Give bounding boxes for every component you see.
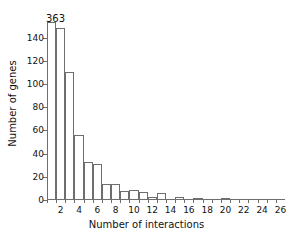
x-tick-label: 14 [161, 205, 181, 215]
bar [56, 28, 65, 200]
x-tick [239, 199, 240, 203]
x-tick [258, 199, 259, 203]
bar [102, 184, 111, 200]
histogram-figure: 020406080100120140 246810121416182022242… [0, 0, 293, 239]
bar [84, 162, 93, 200]
x-tick-label: 2 [51, 205, 71, 215]
x-tick [56, 199, 57, 203]
x-tick-label: 24 [252, 205, 272, 215]
x-tick [276, 199, 277, 203]
x-tick [102, 199, 103, 203]
bar [111, 184, 120, 200]
y-tick-label: 0 [38, 196, 44, 205]
x-tick-label: 6 [87, 205, 107, 215]
x-tick [221, 199, 222, 203]
x-tick [157, 199, 158, 203]
y-tick-label: 100 [27, 80, 44, 89]
x-tick [267, 199, 268, 203]
x-tick [84, 199, 85, 203]
bar [74, 135, 83, 200]
x-tick [166, 199, 167, 203]
bar-series [47, 26, 285, 200]
x-tick-label: 20 [216, 205, 236, 215]
y-tick-label: 20 [33, 173, 44, 182]
x-tick-label: 18 [197, 205, 217, 215]
y-axis-title: Number of genes [7, 39, 18, 169]
x-tick-label: 12 [142, 205, 162, 215]
x-tick [248, 199, 249, 203]
bar [47, 22, 56, 200]
plot-area [47, 26, 285, 200]
x-tick [212, 199, 213, 203]
x-tick [203, 199, 204, 203]
x-tick [93, 199, 94, 203]
y-tick-label: 60 [33, 126, 44, 135]
x-tick [65, 199, 66, 203]
x-tick [139, 199, 140, 203]
bar [93, 164, 102, 200]
y-tick-label: 120 [27, 57, 44, 66]
x-tick-label: 4 [69, 205, 89, 215]
y-tick-label: 80 [33, 103, 44, 112]
y-tick-label: 40 [33, 150, 44, 159]
x-tick [230, 199, 231, 203]
x-tick [184, 199, 185, 203]
x-axis-title: Number of interactions [0, 219, 293, 230]
x-tick [74, 199, 75, 203]
x-tick-label: 16 [179, 205, 199, 215]
x-tick [193, 199, 194, 203]
y-axis-line [47, 26, 48, 200]
x-tick-label: 26 [270, 205, 290, 215]
x-tick-label: 22 [234, 205, 254, 215]
y-tick-label: 140 [27, 34, 44, 43]
x-tick [175, 199, 176, 203]
x-tick-label: 10 [124, 205, 144, 215]
clipped-bar-value-label: 363 [46, 13, 65, 24]
bar [65, 72, 74, 200]
x-tick-label: 8 [106, 205, 126, 215]
x-tick [148, 199, 149, 203]
x-tick [129, 199, 130, 203]
x-tick [120, 199, 121, 203]
x-tick [47, 199, 48, 203]
x-tick [111, 199, 112, 203]
